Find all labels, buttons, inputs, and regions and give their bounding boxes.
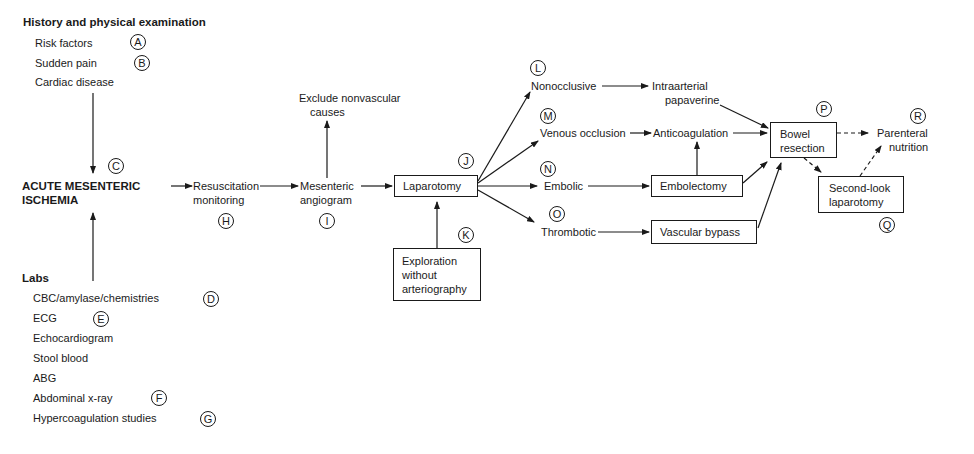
anticoagulation-label: Anticoagulation [653,126,728,140]
angio-line1: Mesenteric [300,179,354,193]
bowel-line2: resection [780,141,827,155]
parenteral-line1: Parenteral [877,126,928,140]
marker-m: M [540,108,556,124]
resus-line1: Resuscitation [193,179,259,193]
labs-title: Labs [22,271,49,285]
marker-i: I [319,213,335,229]
laparotomy-label: Laparotomy [403,179,461,193]
exploration-line1: Exploration [402,254,472,268]
exploration-line2: without [402,268,472,282]
papaverine-line1: Intraarterial [652,79,708,93]
marker-n: N [540,161,556,177]
parenteral-line2: nutrition [889,140,928,154]
second-look-line1: Second-look [829,181,893,195]
embolectomy-label: Embolectomy [660,179,727,193]
marker-e: E [93,311,109,327]
exclude-line2: causes [310,105,345,119]
nonocclusive-label: Nonocclusive [531,79,596,93]
lab-item-cbc: CBC/amylase/chemistries [33,291,159,305]
papaverine-line2: papaverine [665,93,719,107]
embolic-label: Embolic [544,179,583,193]
marker-j: J [458,153,474,169]
thrombotic-label: Thrombotic [541,225,596,239]
vascular-bypass-box: Vascular bypass [651,220,757,244]
embolectomy-box: Embolectomy [651,175,743,197]
lab-item-echocardiogram: Echocardiogram [33,331,113,345]
angio-line2: angiogram [300,193,352,207]
history-item-cardiac-disease: Cardiac disease [35,75,114,89]
laparotomy-box: Laparotomy [394,175,478,197]
marker-k: K [458,227,474,243]
lab-item-abg: ABG [33,371,56,385]
marker-q: Q [879,217,895,233]
history-item-sudden-pain: Sudden pain [35,56,97,70]
lab-item-stool-blood: Stool blood [33,351,88,365]
bowel-line1: Bowel [780,127,827,141]
lab-item-ecg: ECG [33,311,57,325]
marker-b: B [134,55,150,71]
marker-d: D [203,291,219,307]
marker-p: P [816,101,832,117]
resus-line2: monitoring [193,193,244,207]
marker-l: L [530,60,546,76]
marker-a: A [130,34,146,50]
history-title: History and physical examination [23,15,206,29]
ami-line1: ACUTE MESENTERIC [22,179,140,193]
ami-line2: ISCHEMIA [22,193,78,207]
bowel-resection-box: Bowel resection [770,122,837,158]
exploration-line3: arteriography [402,282,472,296]
marker-o: O [549,206,565,222]
marker-h: H [218,213,234,229]
history-item-risk-factors: Risk factors [35,36,92,50]
second-look-line2: laparotomy [829,195,893,209]
marker-f: F [151,390,167,406]
vascular-bypass-label: Vascular bypass [660,225,740,239]
marker-r: R [910,108,926,124]
exploration-box: Exploration without arteriography [393,248,481,301]
marker-c: C [108,158,124,174]
exclude-line1: Exclude nonvascular [299,91,401,105]
venous-occlusion-label: Venous occlusion [540,126,626,140]
lab-item-hypercoagulation: Hypercoagulation studies [33,411,157,425]
second-look-box: Second-look laparotomy [818,176,904,213]
marker-g: G [200,411,216,427]
lab-item-abdominal-xray: Abdominal x-ray [33,391,112,405]
